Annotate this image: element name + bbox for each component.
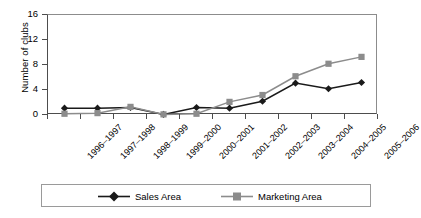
- x-axis-tick-mark: [377, 114, 378, 119]
- x-axis-tick-mark: [278, 114, 279, 119]
- x-axis-tick-mark: [245, 114, 246, 119]
- data-point-square: [226, 99, 232, 105]
- plot-svg: [48, 15, 378, 115]
- y-axis-tick-label: 12: [14, 34, 38, 44]
- data-point-diamond: [61, 105, 68, 112]
- legend-item-marketing-area[interactable]: Marketing Area: [220, 189, 322, 204]
- legend-item-sales-area[interactable]: Sales Area: [97, 189, 181, 204]
- x-axis-tick-mark: [179, 114, 180, 119]
- y-axis-tick-label: 0: [14, 109, 38, 119]
- data-point-square: [358, 54, 364, 60]
- y-axis-tick-label: 16: [14, 9, 38, 19]
- data-point-square: [259, 92, 265, 98]
- plot-area: [47, 14, 377, 114]
- data-point-diamond: [325, 85, 332, 92]
- data-point-diamond: [292, 80, 299, 87]
- data-point-square: [127, 104, 133, 110]
- x-axis-tick-mark: [80, 114, 81, 119]
- x-axis-tick-mark: [113, 114, 114, 119]
- data-point-square: [292, 73, 298, 79]
- data-point-square: [61, 111, 67, 117]
- x-axis-tick-label: 1996–1997: [85, 122, 124, 161]
- data-point-square: [94, 110, 100, 116]
- y-axis-tick-label: 8: [14, 59, 38, 69]
- chart-legend: Sales Area Marketing Area: [41, 184, 371, 207]
- x-axis-tick-mark: [212, 114, 213, 119]
- x-axis-tick-mark: [146, 114, 147, 119]
- series-line: [65, 83, 362, 115]
- data-point-square: [325, 61, 331, 67]
- legend-marker-diamond-icon: [97, 191, 131, 202]
- data-point-diamond: [358, 79, 365, 86]
- series-line: [65, 57, 362, 115]
- x-axis-tick-mark: [47, 114, 48, 119]
- legend-label-sales-area: Sales Area: [135, 191, 181, 203]
- x-axis-tick-mark: [344, 114, 345, 119]
- legend-marker-square-icon: [220, 191, 254, 202]
- x-axis-tick-mark: [311, 114, 312, 119]
- y-axis-tick-label: 4: [14, 84, 38, 94]
- data-point-square: [193, 111, 199, 117]
- data-point-diamond: [226, 105, 233, 112]
- data-point-diamond: [193, 104, 200, 111]
- legend-label-marketing-area: Marketing Area: [258, 191, 322, 203]
- data-point-square: [160, 111, 166, 117]
- data-point-diamond: [259, 98, 266, 105]
